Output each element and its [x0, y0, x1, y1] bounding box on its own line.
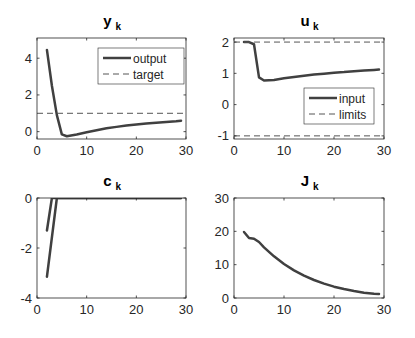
axes-box [37, 198, 186, 298]
figure: 0102030024ykoutputtarget0102030-1012ukin… [0, 0, 415, 338]
y-tick-label: 2 [222, 35, 229, 50]
series-input [244, 42, 379, 80]
legend-label-output: output [133, 52, 167, 66]
legend-label-limits: limits [339, 108, 366, 122]
subplot-title-subscript: k [116, 181, 122, 192]
subplot-y-k: 0102030024ykoutputtarget [25, 12, 193, 158]
x-tick-label: 20 [327, 302, 341, 317]
y-tick-label: 0 [222, 291, 229, 306]
y-tick-label: 0 [222, 97, 229, 112]
x-tick-label: 0 [230, 143, 237, 158]
y-tick-label: 0 [25, 191, 32, 206]
y-tick-label: 2 [25, 87, 32, 102]
x-tick-label: 10 [277, 302, 291, 317]
x-tick-label: 20 [129, 143, 143, 158]
y-tick-label: 10 [215, 257, 229, 272]
subplot-j-k: 01020300102030Jk [215, 172, 392, 317]
x-tick-label: 10 [79, 302, 93, 317]
subplot-title-subscript: k [313, 21, 319, 32]
x-tick-label: 30 [377, 143, 391, 158]
legend-label-input: input [339, 92, 366, 106]
plot-area [47, 198, 181, 277]
y-tick-label: 0 [25, 124, 32, 139]
x-tick-label: 30 [179, 143, 193, 158]
series-constraint-1 [47, 198, 181, 231]
x-tick-label: 0 [33, 143, 40, 158]
subplot-title: y [103, 12, 112, 29]
y-tick-label: 1 [222, 66, 229, 81]
y-tick-label: 4 [25, 51, 32, 66]
axes-box [234, 198, 384, 298]
legend-label-target: target [133, 68, 164, 82]
subplot-title-subscript: k [116, 21, 122, 32]
x-tick-label: 30 [179, 302, 193, 317]
x-tick-label: 30 [377, 302, 391, 317]
x-tick-label: 20 [327, 143, 341, 158]
x-tick-label: 0 [230, 302, 237, 317]
subplot-u-k: 0102030-1012ukinputlimits [217, 12, 391, 158]
y-tick-label: 20 [215, 224, 229, 239]
subplot-title-subscript: k [313, 181, 319, 192]
subplot-title: J [301, 172, 309, 189]
x-tick-label: 0 [33, 302, 40, 317]
legend: outputtarget [98, 48, 184, 84]
plot-area [244, 232, 379, 294]
x-tick-label: 10 [277, 143, 291, 158]
series-cost [244, 232, 379, 294]
x-tick-label: 10 [79, 143, 93, 158]
y-tick-label: -2 [20, 241, 32, 256]
series-constraint-2 [47, 198, 181, 277]
subplot-title: c [103, 172, 111, 189]
y-tick-label: -1 [217, 128, 229, 143]
legend: inputlimits [304, 88, 374, 124]
x-tick-label: 20 [129, 302, 143, 317]
subplot-c-k: 0102030-4-20ck [20, 172, 193, 317]
y-tick-label: 30 [215, 191, 229, 206]
subplot-title: u [300, 12, 309, 29]
y-tick-label: -4 [20, 291, 32, 306]
